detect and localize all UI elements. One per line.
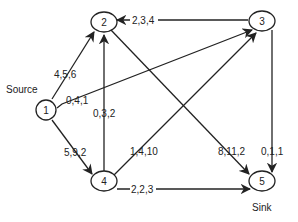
edge-label-4-3: 1,4,10 bbox=[130, 146, 158, 157]
network-flow-diagram: 4,5,6 0,4,1 5,9,2 2,3,4 0,3,2 8,11,2 1,4… bbox=[0, 0, 298, 222]
node-3: 3 bbox=[249, 11, 275, 31]
node-4: 4 bbox=[91, 171, 117, 191]
node-label-4: 4 bbox=[101, 176, 107, 187]
node-label-2: 2 bbox=[101, 17, 107, 28]
edge-label-1-3: 0,4,1 bbox=[66, 95, 89, 106]
edge-label-backgrounds bbox=[130, 14, 158, 196]
edge-label-4-5: 2,2,3 bbox=[131, 184, 154, 195]
edge-1-2 bbox=[52, 32, 94, 99]
node-1: 1 bbox=[36, 100, 56, 120]
node-label-3: 3 bbox=[259, 16, 265, 27]
node-5: 5 bbox=[249, 171, 275, 191]
edge-label-3-2: 2,3,4 bbox=[132, 15, 155, 26]
edge-label-1-4: 5,9,2 bbox=[64, 147, 87, 158]
node-label-1: 1 bbox=[43, 105, 49, 116]
edge-label-4-2: 0,3,2 bbox=[93, 108, 116, 119]
source-annotation: Source bbox=[6, 84, 38, 95]
edge-label-3-5: 0,1,1 bbox=[261, 146, 284, 157]
node-label-5: 5 bbox=[259, 176, 265, 187]
sink-annotation: Sink bbox=[252, 202, 272, 213]
edge-label-1-2: 4,5,6 bbox=[54, 69, 77, 80]
edge-label-2-5: 8,11,2 bbox=[218, 146, 245, 157]
node-2: 2 bbox=[91, 12, 117, 32]
